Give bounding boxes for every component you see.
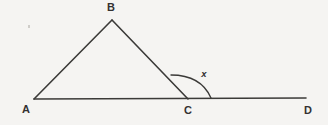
- vertex-label-a: A: [22, 103, 30, 115]
- line-ad: [34, 98, 306, 99]
- figure-background: [0, 0, 328, 125]
- geometry-figure: A B C D x: [0, 0, 328, 125]
- geometry-canvas: A B C D x: [0, 0, 328, 125]
- vertex-label-d: D: [304, 104, 312, 116]
- angle-label-x: x: [200, 68, 207, 79]
- scan-speck-artifact: [28, 25, 30, 28]
- vertex-label-b: B: [107, 1, 115, 13]
- vertex-label-c: C: [184, 104, 192, 116]
